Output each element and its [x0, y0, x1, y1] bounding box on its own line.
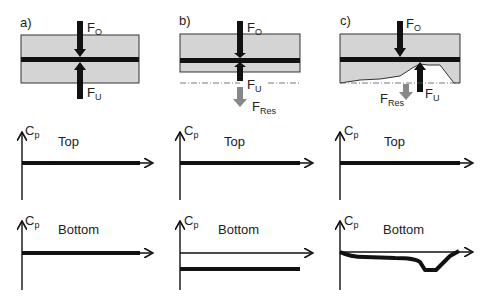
plot-title-b-top: Top — [224, 135, 245, 148]
plot-title-c-bottom: Bottom — [383, 223, 424, 236]
plot-b-top — [180, 133, 312, 200]
force-bottom-label-b: FU — [247, 78, 261, 91]
panel-b-plate — [180, 21, 300, 107]
cp-axis-label-a-top: Cp — [25, 124, 39, 137]
cp-axis-label-c-bottom: Cp — [344, 214, 358, 227]
panel-a-plate — [21, 21, 139, 99]
plot-title-b-bottom: Bottom — [218, 223, 259, 236]
plot-a-top — [22, 133, 152, 200]
plot-title-c-top: Top — [384, 135, 405, 148]
cp-axis-label-a-bottom: Cp — [25, 214, 39, 227]
force-res-label-c: FRes — [380, 92, 404, 105]
plot-title-a-top: Top — [58, 135, 79, 148]
cp-axis-label-b-top: Cp — [184, 124, 198, 137]
panel-c-plate — [340, 21, 460, 100]
plot-title-a-bottom: Bottom — [58, 223, 99, 236]
panel-a-label: a) — [20, 16, 32, 29]
force-bottom-label-c: FU — [425, 87, 439, 100]
panel-c-label: c) — [340, 14, 351, 27]
force-res-label-b: FRes — [252, 100, 276, 113]
force-top-label-b: FO — [247, 21, 262, 34]
plot-c-top — [340, 133, 472, 200]
cp-axis-label-c-top: Cp — [344, 124, 358, 137]
force-top-label-a: FO — [87, 21, 102, 34]
diagram-canvas — [0, 0, 492, 305]
cp-axis-label-b-bottom: Cp — [184, 214, 198, 227]
force-top-label-c: FO — [406, 17, 421, 30]
force-bottom-label-a: FU — [87, 86, 101, 99]
panel-b-label: b) — [179, 14, 191, 27]
